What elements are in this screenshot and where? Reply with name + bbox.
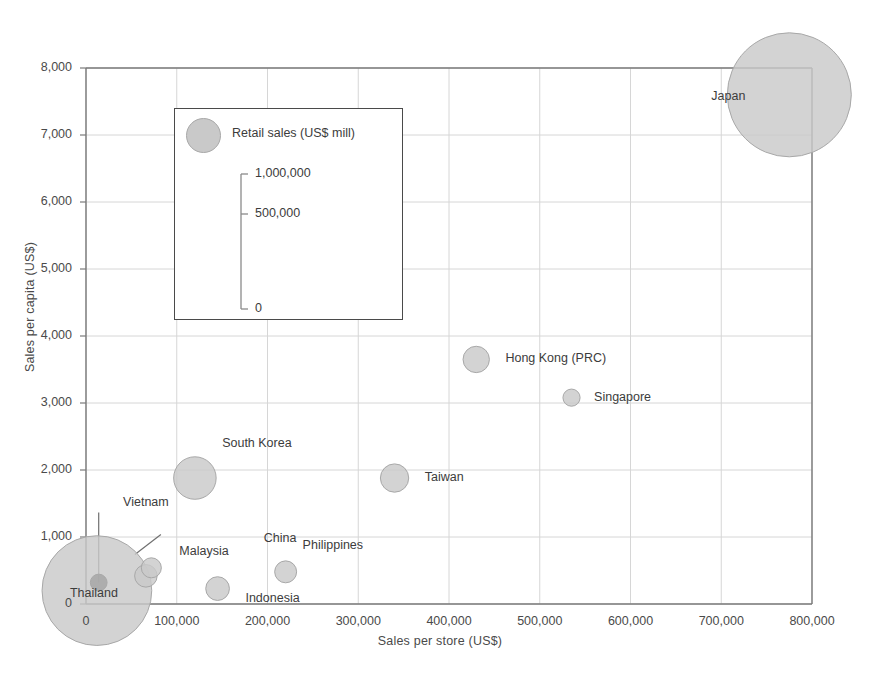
bubble-philippines[interactable] xyxy=(275,561,297,583)
x-tick-label: 100,000 xyxy=(137,614,217,628)
x-tick-label: 800,000 xyxy=(772,614,852,628)
bubble-label-malaysia: Malaysia xyxy=(179,544,228,558)
x-tick-label: 0 xyxy=(46,614,126,628)
y-tick-label: 6,000 xyxy=(16,194,72,208)
bubble-label-japan: Japan xyxy=(711,89,745,103)
x-tick-label: 600,000 xyxy=(591,614,671,628)
leader-line-china xyxy=(135,535,161,555)
y-tick-label: 0 xyxy=(16,596,72,610)
bubble-singapore[interactable] xyxy=(563,389,580,406)
bubble-japan[interactable] xyxy=(727,33,851,157)
bubble-indonesia[interactable] xyxy=(206,577,230,601)
x-axis-title: Sales per store (US$) xyxy=(330,634,550,648)
bubble-label-taiwan: Taiwan xyxy=(425,470,464,484)
x-tick-label: 700,000 xyxy=(681,614,761,628)
bubble-south-korea[interactable] xyxy=(174,457,216,499)
x-tick-label: 400,000 xyxy=(409,614,489,628)
bubble-label-philippines: Philippines xyxy=(303,538,363,552)
legend-scale-value: 1,000,000 xyxy=(255,166,311,180)
y-tick-label: 1,000 xyxy=(16,529,72,543)
bubble-label-china: China xyxy=(264,531,297,545)
x-tick-label: 200,000 xyxy=(228,614,308,628)
bubble-label-singapore: Singapore xyxy=(594,390,651,404)
y-tick-label: 7,000 xyxy=(16,127,72,141)
legend-scale-value: 500,000 xyxy=(255,206,300,220)
size-legend: Retail sales (US$ mill) 1,000,000500,000… xyxy=(174,108,403,320)
y-tick-label: 8,000 xyxy=(16,60,72,74)
bubble-malaysia[interactable] xyxy=(141,558,161,578)
bubble-label-hong-kong-prc: Hong Kong (PRC) xyxy=(505,351,606,365)
x-tick-label: 300,000 xyxy=(318,614,398,628)
y-tick-label: 5,000 xyxy=(16,261,72,275)
legend-scale-value: 0 xyxy=(255,301,262,315)
y-tick-label: 2,000 xyxy=(16,462,72,476)
x-tick-label: 500,000 xyxy=(500,614,580,628)
bubble-label-south-korea: South Korea xyxy=(222,436,292,450)
y-tick-label: 4,000 xyxy=(16,328,72,342)
y-tick-label: 3,000 xyxy=(16,395,72,409)
bubble-chart: Sales per capita (US$) Sales per store (… xyxy=(0,0,875,676)
bubble-label-vietnam: Vietnam xyxy=(123,495,169,509)
bubble-taiwan[interactable] xyxy=(380,464,408,492)
bubble-hong-kong-prc[interactable] xyxy=(463,346,489,372)
bubble-label-thailand: Thailand xyxy=(70,586,118,600)
y-axis-title: Sales per capita (US$) xyxy=(23,207,37,407)
bubble-label-indonesia: Indonesia xyxy=(245,591,299,605)
